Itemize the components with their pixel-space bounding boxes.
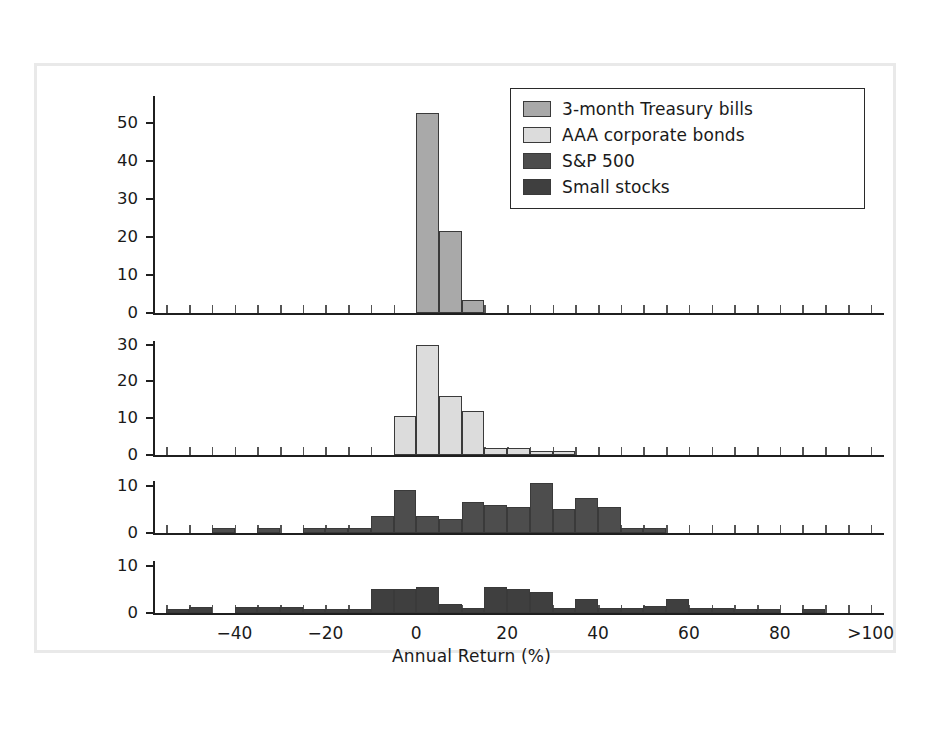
x-tick: [598, 447, 600, 455]
bar: [462, 502, 485, 533]
legend-item: 3-month Treasury bills: [523, 96, 854, 122]
x-tick: [325, 305, 327, 313]
y-tick: [146, 236, 153, 238]
x-tick: [280, 447, 282, 455]
x-tick: [643, 447, 645, 455]
bar: [530, 483, 553, 533]
y-tick: [146, 198, 153, 200]
y-tick-label: 50: [85, 113, 138, 132]
bar: [257, 607, 280, 613]
x-tick: [780, 305, 782, 313]
y-tick: [146, 344, 153, 346]
bar: [484, 505, 507, 533]
x-tick-label: 0: [366, 623, 466, 643]
bar: [507, 589, 530, 613]
x-tick: [371, 447, 373, 455]
bar: [484, 587, 507, 613]
y-tick-label: 20: [85, 372, 138, 391]
legend-swatch-icon: [523, 101, 551, 117]
x-tick: [734, 447, 736, 455]
x-tick: [643, 305, 645, 313]
y-axis-line: [153, 341, 155, 457]
x-tick: [621, 305, 623, 313]
x-tick: [553, 305, 555, 313]
bar: [280, 607, 303, 613]
x-tick-label: 40: [548, 623, 648, 643]
bar: [553, 451, 576, 455]
x-tick: [371, 305, 373, 313]
x-tick-label: >100: [821, 623, 921, 643]
x-tick: [712, 525, 714, 533]
legend-item: S&P 500: [523, 148, 854, 174]
bar: [212, 528, 235, 533]
x-tick: [871, 525, 873, 533]
x-axis-line: [153, 533, 884, 535]
x-tick: [689, 305, 691, 313]
figure-canvas: Frequency (number of years) Annual Retur…: [0, 0, 943, 745]
x-tick: [189, 305, 191, 313]
x-tick: [780, 605, 782, 613]
bar: [439, 604, 462, 613]
x-tick: [575, 305, 577, 313]
x-tick-label: 20: [457, 623, 557, 643]
x-tick: [348, 305, 350, 313]
bar: [643, 528, 666, 533]
x-tick: [166, 525, 168, 533]
bar: [553, 509, 576, 533]
x-tick: [802, 525, 804, 533]
bar: [530, 592, 553, 613]
x-tick: [666, 525, 668, 533]
x-tick: [507, 305, 509, 313]
bar: [621, 528, 644, 533]
x-tick: [848, 305, 850, 313]
y-tick: [146, 312, 153, 314]
bar: [507, 448, 530, 455]
y-tick-label: 10: [85, 408, 138, 427]
x-tick: [325, 447, 327, 455]
bar: [416, 587, 439, 613]
x-tick: [280, 525, 282, 533]
x-tick: [189, 525, 191, 533]
x-tick: [689, 447, 691, 455]
x-tick: [757, 305, 759, 313]
x-tick: [780, 447, 782, 455]
bar: [166, 609, 189, 613]
x-tick: [848, 605, 850, 613]
x-tick: [212, 305, 214, 313]
legend-item: AAA corporate bonds: [523, 122, 854, 148]
bar: [757, 609, 780, 613]
y-tick-label: 0: [85, 445, 138, 464]
y-tick-label: 10: [85, 265, 138, 284]
x-tick: [825, 305, 827, 313]
y-tick-label: 0: [85, 603, 138, 622]
bar: [439, 396, 462, 455]
chart-legend: 3-month Treasury billsAAA corporate bond…: [510, 88, 865, 209]
x-tick: [212, 447, 214, 455]
legend-label: Small stocks: [562, 177, 670, 197]
y-tick-label: 0: [85, 303, 138, 322]
bar: [235, 607, 258, 613]
y-tick: [146, 380, 153, 382]
x-tick-label: 60: [639, 623, 739, 643]
y-tick: [146, 122, 153, 124]
x-tick-label: −20: [275, 623, 375, 643]
bar: [394, 490, 417, 533]
bar: [575, 498, 598, 533]
y-tick-label: 40: [85, 151, 138, 170]
legend-swatch-icon: [523, 153, 551, 169]
x-tick: [802, 305, 804, 313]
bar: [416, 516, 439, 533]
x-tick: [484, 305, 486, 313]
bar: [416, 345, 439, 455]
x-tick: [757, 525, 759, 533]
x-axis-line: [153, 455, 884, 457]
x-tick: [348, 447, 350, 455]
x-axis-title: Annual Return (%): [0, 646, 943, 666]
y-tick: [146, 160, 153, 162]
y-tick-label: 0: [85, 523, 138, 542]
bar: [394, 416, 417, 455]
y-axis-line: [153, 561, 155, 615]
bar: [802, 609, 825, 613]
bar: [439, 231, 462, 313]
bar: [530, 451, 553, 455]
